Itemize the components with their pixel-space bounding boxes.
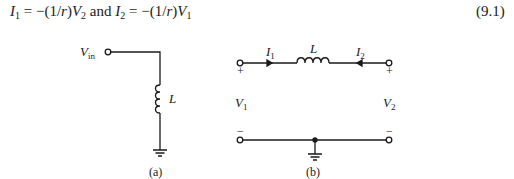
i2-label: I2 bbox=[355, 44, 365, 61]
circuit-figure: Vin L (a) I1 L I2 + + V1 V2 − − (b) bbox=[0, 0, 514, 179]
port1-minus-sign: − bbox=[237, 124, 244, 138]
port1-plus-sign: + bbox=[237, 64, 244, 78]
ground-b-icon bbox=[308, 154, 322, 160]
port2-minus-terminal-icon bbox=[386, 137, 392, 143]
inductor-b-label: L bbox=[309, 41, 317, 56]
inductor-a-icon bbox=[156, 85, 161, 113]
i1-label: I1 bbox=[265, 44, 275, 61]
inductor-a-label: L bbox=[168, 91, 176, 106]
v1-label: V1 bbox=[235, 95, 247, 112]
port1-minus-terminal-icon bbox=[237, 137, 243, 143]
v2-label: V2 bbox=[383, 95, 395, 112]
inductor-b-icon bbox=[297, 58, 329, 63]
ground-a-icon bbox=[153, 150, 167, 156]
caption-b: (b) bbox=[306, 165, 320, 179]
port2-minus-sign: − bbox=[386, 124, 393, 138]
vin-label: Vin bbox=[80, 44, 95, 61]
caption-a: (a) bbox=[149, 165, 162, 179]
input-terminal-icon bbox=[105, 49, 111, 55]
port2-plus-sign: + bbox=[386, 64, 393, 78]
